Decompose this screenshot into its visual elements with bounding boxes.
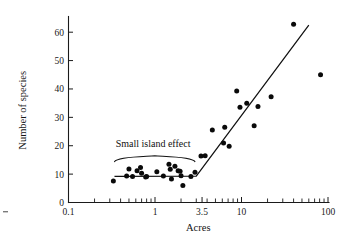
data-point (111, 178, 116, 183)
x-tick-label: 3.5 (196, 207, 208, 217)
data-point (130, 174, 135, 179)
data-point (180, 183, 185, 188)
data-point (168, 167, 173, 172)
data-point (255, 104, 260, 109)
data-point (126, 167, 131, 172)
y-tick-label: 10 (55, 170, 65, 180)
data-point (144, 174, 149, 179)
data-point (169, 176, 174, 181)
data-point (154, 169, 159, 174)
data-point (138, 165, 143, 170)
data-point (139, 171, 144, 176)
data-point (179, 173, 184, 178)
y-tick-label: 60 (55, 28, 65, 38)
annotation-label: Small island effect (116, 138, 191, 149)
chart-figure: Small island effect 0102030405060 0.113.… (0, 0, 346, 244)
data-point (172, 164, 177, 169)
data-point (193, 170, 198, 175)
y-tick-label: 20 (55, 141, 65, 151)
data-point (291, 22, 296, 27)
data-point (161, 174, 166, 179)
data-point (244, 101, 249, 106)
x-tick-label: 1 (153, 207, 158, 217)
data-point (234, 88, 239, 93)
data-point (166, 162, 171, 167)
plot-background (0, 0, 346, 244)
data-point (210, 128, 215, 133)
data-point (178, 169, 183, 174)
x-tick-label: 100 (321, 207, 336, 217)
x-axis-title: Acres (186, 222, 211, 233)
data-point (252, 123, 257, 128)
data-point (227, 144, 232, 149)
y-tick-label: 40 (55, 84, 65, 94)
data-point (221, 140, 226, 145)
x-tick-label: 10 (237, 207, 247, 217)
data-point (222, 125, 227, 130)
page-edge-mark (3, 211, 8, 212)
x-tick-label: 0.1 (63, 207, 75, 217)
y-tick-label: 30 (55, 113, 65, 123)
scatter-plot-svg: Small island effect 0102030405060 0.113.… (0, 0, 346, 244)
data-point (203, 153, 208, 158)
data-point (269, 94, 274, 99)
data-point (124, 174, 129, 179)
y-tick-label: 50 (55, 56, 65, 66)
data-point (318, 72, 323, 77)
y-axis-title: Number of species (17, 71, 28, 150)
data-point (188, 174, 193, 179)
data-point (237, 105, 242, 110)
